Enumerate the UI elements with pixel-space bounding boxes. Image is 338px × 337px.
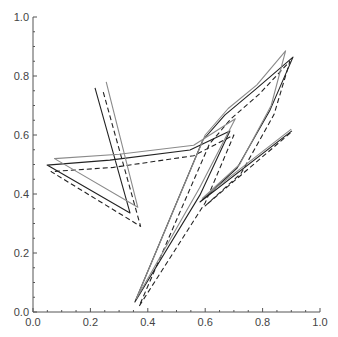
x-tick-label: 0.4	[140, 316, 155, 328]
plot-area	[47, 51, 293, 306]
series-solid-black	[47, 57, 293, 302]
x-axis: 0.00.20.40.60.81.0	[25, 308, 327, 328]
x-tick-label: 0.8	[255, 316, 270, 328]
series-dashed-black	[51, 61, 291, 306]
y-tick-label: 0.8	[14, 70, 29, 82]
y-tick-label: 1.0	[14, 11, 29, 23]
x-tick-label: 0.6	[198, 316, 213, 328]
series-solid-gray	[55, 51, 292, 299]
y-tick-label: 0.4	[14, 188, 29, 200]
y-axis: 0.00.20.40.60.81.0	[14, 11, 37, 318]
line-chart: 0.00.20.40.60.81.0 0.00.20.40.60.81.0	[0, 0, 338, 337]
x-tick-label: 1.0	[312, 316, 327, 328]
y-tick-label: 0.6	[14, 129, 29, 141]
x-tick-label: 0.0	[25, 316, 40, 328]
y-tick-label: 0.2	[14, 247, 29, 259]
x-tick-label: 0.2	[83, 316, 98, 328]
